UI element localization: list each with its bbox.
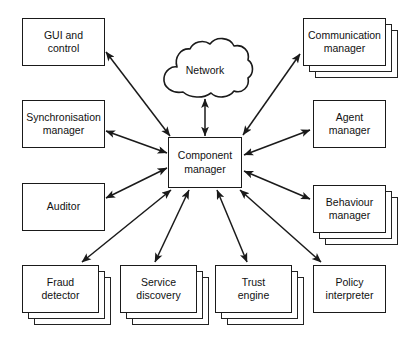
agent-manager-label-line2: manager — [329, 124, 370, 137]
gui-and-control[interactable]: GUI andcontrol — [22, 18, 105, 66]
behaviour-manager[interactable]: Behaviourmanager — [313, 185, 386, 233]
fraud-detector-label: Frauddetector — [42, 276, 80, 302]
auditor-label-line1: Auditor — [47, 200, 80, 213]
network-cloud-label: Network — [163, 64, 247, 77]
auditor[interactable]: Auditor — [22, 183, 105, 231]
service-discovery-label: Servicediscovery — [136, 276, 180, 302]
fraud-detector-label-line1: Fraud — [42, 276, 80, 289]
component-manager-label: Componentmanager — [178, 149, 232, 175]
fraud-detector[interactable]: Frauddetector — [22, 265, 99, 313]
trust-engine-label: Trustengine — [238, 276, 270, 302]
policy-interpreter[interactable]: Policyinterpreter — [313, 265, 386, 313]
synchronisation-manager-label-line2: manager — [26, 124, 101, 137]
gui-and-control-label-line1: GUI and — [44, 29, 83, 42]
communication-manager-label: Communicationmanager — [308, 29, 381, 55]
architecture-diagram: GUI andcontrolSynchronisationmanagerAudi… — [0, 0, 420, 350]
communication-manager-label-line1: Communication — [308, 29, 381, 42]
synchronisation-manager-label-line1: Synchronisation — [26, 111, 101, 124]
gui-and-control-label-line2: control — [44, 42, 83, 55]
behaviour-manager-label-line1: Behaviour — [326, 196, 373, 209]
auditor-label: Auditor — [47, 200, 80, 213]
trust-engine-label-line2: engine — [238, 289, 270, 302]
service-discovery[interactable]: Servicediscovery — [120, 265, 197, 313]
agent-manager-label: Agentmanager — [329, 111, 370, 137]
behaviour-manager-label-line2: manager — [326, 209, 373, 222]
behaviour-manager-label: Behaviourmanager — [326, 196, 373, 222]
component-manager[interactable]: Componentmanager — [168, 137, 242, 188]
fraud-detector-label-line2: detector — [42, 289, 80, 302]
synchronisation-manager-label: Synchronisationmanager — [26, 111, 101, 137]
communication-manager-label-line2: manager — [308, 42, 381, 55]
agent-manager-label-line1: Agent — [329, 111, 370, 124]
service-discovery-label-line2: discovery — [136, 289, 180, 302]
service-discovery-label-line1: Service — [136, 276, 180, 289]
agent-manager[interactable]: Agentmanager — [313, 100, 386, 148]
policy-interpreter-label-line2: interpreter — [326, 289, 374, 302]
trust-engine[interactable]: Trustengine — [215, 265, 292, 313]
trust-engine-label-line1: Trust — [238, 276, 270, 289]
communication-manager[interactable]: Communicationmanager — [303, 18, 386, 66]
component-manager-label-line2: manager — [178, 163, 232, 176]
synchronisation-manager[interactable]: Synchronisationmanager — [22, 100, 105, 148]
policy-interpreter-label: Policyinterpreter — [326, 276, 374, 302]
component-manager-label-line1: Component — [178, 149, 232, 162]
policy-interpreter-label-line1: Policy — [326, 276, 374, 289]
gui-and-control-label: GUI andcontrol — [44, 29, 83, 55]
